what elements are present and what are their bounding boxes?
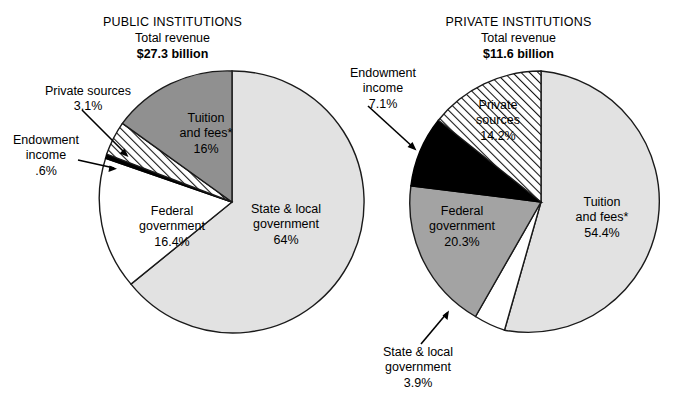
private-state-local-arrowhead	[443, 311, 450, 321]
private-label-state-local: State & local government 3.9%	[353, 345, 483, 391]
private-label-tuition: Tuition and fees* 54.4%	[554, 195, 650, 241]
public-pie-graphic	[0, 0, 345, 396]
private-label-endowment: Endowment income 7.1%	[323, 66, 443, 112]
private-institutions-chart: PRIVATE INSTITUTIONS Total revenue $11.6…	[346, 0, 691, 396]
public-label-federal: Federal government 16.4%	[118, 204, 226, 250]
public-label-endowment: Endowment income .6%	[0, 133, 94, 179]
public-label-tuition: Tuition and fees* 16%	[166, 111, 246, 157]
public-institutions-chart: PUBLIC INSTITUTIONS Total revenue $27.3 …	[0, 0, 345, 396]
private-state-local-leader	[421, 313, 447, 344]
public-label-state-local: State & local government 64%	[233, 202, 339, 248]
public-label-private-sources: Private sources 3.1%	[22, 84, 154, 115]
private-label-private-sources: Private sources 14.2%	[458, 98, 538, 144]
private-label-federal: Federal government 20.3%	[408, 204, 516, 250]
private-endowment-leader	[368, 106, 414, 148]
